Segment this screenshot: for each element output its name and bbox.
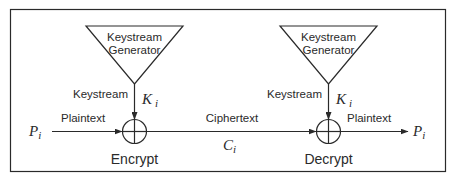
encrypt-xor-icon <box>123 120 147 144</box>
decrypt-keystream-label: Keystream <box>267 88 322 100</box>
decrypt-xor-icon <box>317 120 341 144</box>
generator-label-line1: Keystream <box>301 31 356 43</box>
decrypt-caption: Decrypt <box>304 151 352 167</box>
encrypt-keystream-label: Keystream <box>73 88 128 100</box>
ciphertext-symbol: Ci <box>223 137 236 155</box>
encrypt-input-label: Plaintext <box>61 112 106 124</box>
decrypt-keystream-generator: Keystream Generator <box>280 26 377 84</box>
encrypt-key-symbol: Ki <box>141 91 158 109</box>
decrypt-key-symbol: Ki <box>335 91 352 109</box>
encrypt-input-symbol: Pi <box>28 123 41 141</box>
decrypt-output-label: Plaintext <box>347 112 392 124</box>
ciphertext-label: Ciphertext <box>206 112 259 124</box>
encrypt-keystream-generator: Keystream Generator <box>86 26 183 84</box>
generator-label-line2: Generator <box>109 44 161 56</box>
decrypt-output-symbol: Pi <box>412 123 425 141</box>
stream-cipher-diagram: Keystream Generator Keystream Ki Pi Plai… <box>0 0 453 179</box>
encrypt-caption: Encrypt <box>111 151 159 167</box>
generator-label-line2: Generator <box>303 44 355 56</box>
generator-label-line1: Keystream <box>107 31 162 43</box>
